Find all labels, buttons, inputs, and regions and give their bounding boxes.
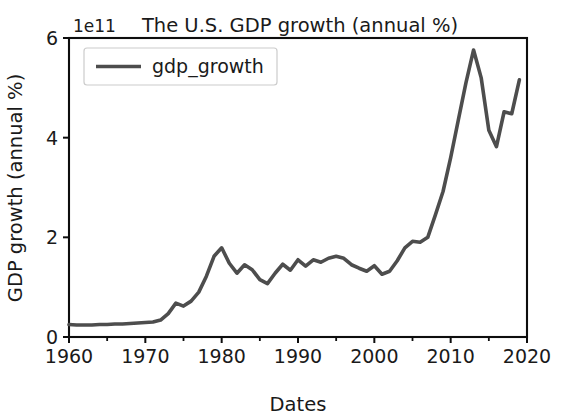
x-tick-label: 2010 — [426, 345, 474, 367]
y-tick-label: 0 — [46, 326, 58, 348]
x-axis-tick-labels: 1960197019801990200020102020 — [45, 345, 551, 367]
legend-label-gdp-growth: gdp_growth — [152, 55, 264, 78]
x-axis-title: Dates — [270, 393, 327, 416]
chart-title: The U.S. GDP growth (annual %) — [141, 14, 458, 37]
chart-legend[interactable]: gdp_growth — [84, 48, 277, 85]
x-tick-label: 1970 — [121, 345, 169, 367]
series-line-gdp-growth — [69, 50, 519, 325]
x-tick-label: 2020 — [503, 345, 551, 367]
y-axis-tick-labels: 0246 — [46, 27, 58, 348]
x-tick-label: 2000 — [350, 345, 398, 367]
y-axis-offset-text: 1e11 — [73, 16, 116, 36]
chart-figure: 1960197019801990200020102020 0246 1e11 T… — [0, 0, 564, 419]
x-tick-label: 1990 — [274, 345, 322, 367]
x-tick-label: 1980 — [197, 345, 245, 367]
y-tick-label: 4 — [46, 127, 58, 149]
x-tick-label: 1960 — [45, 345, 93, 367]
gdp-growth-line-chart: 1960197019801990200020102020 0246 1e11 T… — [0, 0, 564, 419]
y-tick-label: 2 — [46, 226, 58, 248]
y-tick-label: 6 — [46, 27, 58, 49]
y-axis-title: GDP growth (annual %) — [4, 74, 27, 302]
